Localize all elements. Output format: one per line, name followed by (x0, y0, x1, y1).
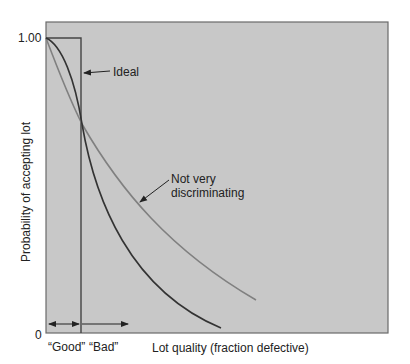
ideal-label: Ideal (113, 65, 139, 79)
y-tick-top: 1.00 (18, 31, 42, 45)
not-very-label-1: Not very (171, 172, 216, 186)
good-label: “Good” (48, 340, 85, 354)
y-axis-label: Probability of accepting lot (19, 121, 33, 262)
x-axis-label: Lot quality (fraction defective) (152, 341, 309, 355)
y-tick-bottom: 0 (35, 328, 42, 342)
plot-area (46, 22, 388, 333)
bad-label: “Bad” (89, 340, 118, 354)
not-very-label-2: discriminating (171, 186, 244, 200)
oc-curve-chart: Ideal Not very discriminating 1.00 0 Pro… (0, 0, 410, 364)
